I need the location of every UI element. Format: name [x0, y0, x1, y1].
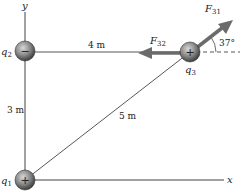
q2-label: q2 — [1, 46, 12, 59]
angle-label: 37° — [219, 38, 235, 48]
distance-q2-q3: 4 m — [88, 40, 106, 50]
x-axis-label: x — [227, 174, 233, 185]
svg-text:+: + — [185, 46, 194, 59]
svg-text:+: + — [20, 174, 29, 187]
distance-q1-q3: 5 m — [119, 111, 137, 121]
charge-q3: + — [180, 42, 200, 62]
svg-text:−: − — [20, 45, 29, 58]
coulomb-force-diagram: y x 37° F32 F31 4 m 3 m 5 m − q2 + q3 + … — [0, 0, 240, 196]
angle-arc — [211, 37, 216, 52]
charge-q1: + — [15, 170, 35, 190]
q1-label: q1 — [1, 175, 12, 188]
distance-q1-q2: 3 m — [7, 105, 25, 115]
f31-label: F31 — [204, 3, 221, 16]
f32-arrowhead — [138, 47, 152, 59]
y-axis-label: y — [21, 0, 28, 11]
f31-arrowhead — [218, 20, 233, 34]
force-f31-arrow — [195, 28, 222, 49]
q3-label: q3 — [185, 64, 196, 77]
line-q1-q3 — [25, 52, 190, 180]
charge-q2: − — [15, 41, 35, 61]
f32-label: F32 — [149, 35, 166, 48]
